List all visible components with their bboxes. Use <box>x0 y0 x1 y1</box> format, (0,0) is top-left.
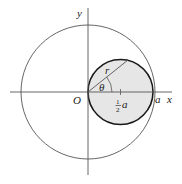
origin-label: O <box>73 94 81 106</box>
center-fraction-denominator: 2 <box>116 106 120 114</box>
center-variable-label: a <box>122 98 128 110</box>
polar-circle-diagram: y x O a r θ 1 2 a <box>0 0 182 184</box>
x-axis-label: x <box>166 93 172 105</box>
y-axis-label: y <box>76 7 82 19</box>
center-fraction-numerator: 1 <box>116 98 120 106</box>
radius-label: r <box>105 64 110 76</box>
point-a-label: a <box>155 93 161 105</box>
angle-label: θ <box>99 81 105 93</box>
